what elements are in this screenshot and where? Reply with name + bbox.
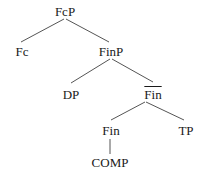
node-finp: FinP <box>99 45 124 59</box>
edge-finp-dp <box>71 59 110 83</box>
node-fin: Fin <box>102 124 119 138</box>
edge-finp-finbar <box>112 59 153 82</box>
edge-finbar-fin <box>111 102 145 120</box>
syntax-tree: FcP Fc FinP DP Fin Fin TP COMP <box>0 0 209 184</box>
node-fcp: FcP <box>55 5 75 19</box>
edge-fcp-finp <box>66 19 109 42</box>
node-comp: COMP <box>92 156 129 170</box>
node-tp: TP <box>178 124 193 138</box>
node-fc: Fc <box>16 45 29 59</box>
node-dp: DP <box>63 88 80 102</box>
node-fin-bar: Fin <box>144 88 161 102</box>
edge-fcp-fc <box>21 19 64 42</box>
edge-finbar-tp <box>146 102 184 120</box>
